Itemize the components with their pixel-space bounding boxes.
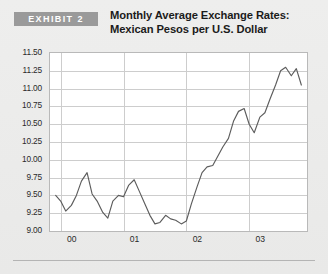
y-axis-tick-label: 9.50 [0,189,42,199]
exhibit-page: EXHIBIT 2 Monthly Average Exchange Rates… [0,0,328,274]
y-axis-tick-label: 10.50 [0,118,42,128]
x-axis-tick-label: 00 [57,234,87,244]
y-axis-tick-label: 10.00 [0,154,42,164]
exhibit-number-badge: EXHIBIT 2 [14,12,98,26]
series-line-layer [50,53,307,231]
y-axis-tick-label: 9.75 [0,172,42,182]
x-axis-tick-label: 03 [245,234,275,244]
line-chart: 11.5011.2511.0010.7510.5010.2510.009.759… [0,44,328,249]
y-axis-tick-label: 11.50 [0,47,42,57]
x-axis-tick-label: 01 [120,234,150,244]
y-axis-tick-label: 9.00 [0,225,42,235]
plot-area [49,52,308,232]
exhibit-title: Monthly Average Exchange Rates: Mexican … [110,9,320,36]
exhibit-title-line-1: Monthly Average Exchange Rates: [110,9,320,23]
y-axis-tick-label: 11.00 [0,83,42,93]
exhibit-title-line-2: Mexican Pesos per U.S. Dollar [110,23,320,37]
exchange-rate-line [56,67,302,224]
y-axis-tick-label: 10.75 [0,100,42,110]
y-axis-tick-label: 10.25 [0,136,42,146]
exhibit-header: EXHIBIT 2 Monthly Average Exchange Rates… [14,11,316,45]
y-axis-tick-label: 11.25 [0,65,42,75]
x-axis-tick-label: 02 [182,234,212,244]
y-axis-tick-label: 9.25 [0,207,42,217]
footer-divider [13,260,315,261]
